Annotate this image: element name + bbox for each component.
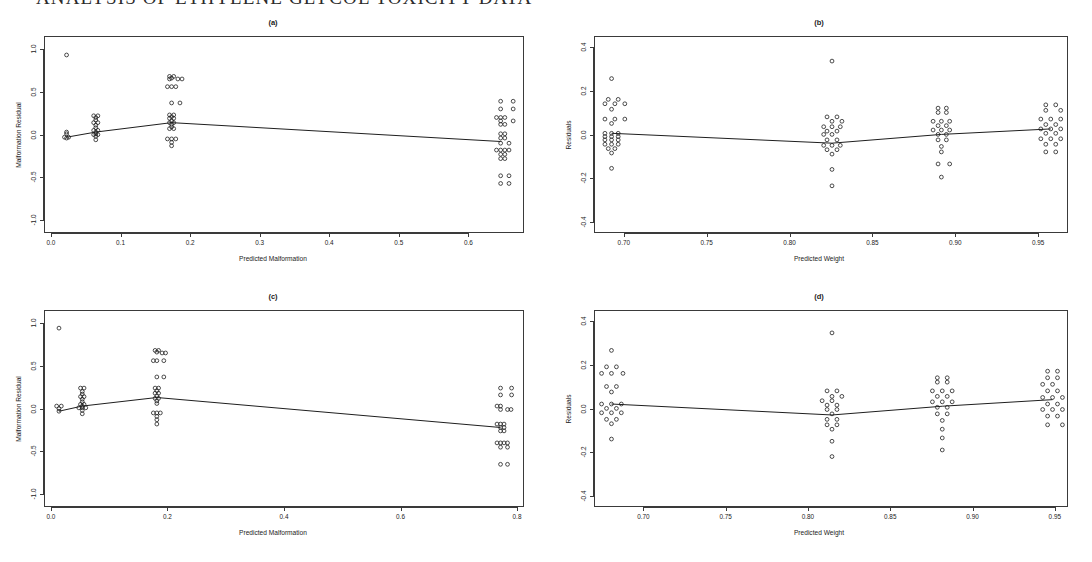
x-tick-label: 0.2 <box>186 239 195 246</box>
data-point <box>1059 127 1063 131</box>
data-point <box>939 128 943 132</box>
y-tick-label: 0.5 <box>30 87 37 96</box>
data-point <box>499 148 503 152</box>
y-tick-label: 0.0 <box>30 404 37 413</box>
x-tick-label: 0.90 <box>966 513 978 520</box>
data-point <box>830 133 834 137</box>
data-point <box>825 389 829 393</box>
data-point <box>945 394 949 398</box>
data-point <box>610 390 614 394</box>
data-point <box>499 462 503 466</box>
data-point <box>939 150 943 154</box>
plot-area-b <box>594 36 1068 233</box>
y-tick-label: 0.0 <box>580 404 587 413</box>
data-point <box>950 400 954 404</box>
data-layer-c <box>45 311 525 508</box>
y-tick-label: 0.2 <box>580 86 587 95</box>
data-point <box>1046 423 1050 427</box>
data-point <box>940 389 944 393</box>
data-point <box>939 119 943 123</box>
data-point <box>499 152 503 156</box>
x-tick-label: 0.0 <box>47 239 56 246</box>
data-point <box>610 151 614 155</box>
data-point <box>166 137 170 141</box>
data-point <box>499 107 503 111</box>
data-point <box>510 393 514 397</box>
data-point <box>830 184 834 188</box>
data-point <box>931 119 935 123</box>
data-point <box>1059 108 1063 112</box>
data-point <box>506 462 510 466</box>
data-point <box>507 141 511 145</box>
y-tick <box>590 496 594 497</box>
data-point <box>503 116 507 120</box>
data-point <box>944 111 948 115</box>
data-point <box>838 143 842 147</box>
data-point <box>936 138 940 142</box>
data-point <box>605 407 609 411</box>
x-tick <box>468 233 469 237</box>
data-point <box>605 385 609 389</box>
x-tick-label: 0.4 <box>280 513 289 520</box>
data-point <box>1054 123 1058 127</box>
data-point <box>825 403 829 407</box>
data-point <box>1051 382 1055 386</box>
data-point <box>610 349 614 353</box>
data-point <box>499 132 503 136</box>
data-point <box>610 142 614 146</box>
plot-area-c <box>44 310 524 507</box>
data-point <box>176 77 180 81</box>
data-point <box>936 106 940 110</box>
data-point <box>840 394 844 398</box>
data-point <box>499 386 503 390</box>
x-tick-label: 0.70 <box>618 239 630 246</box>
fitted-line-d <box>611 400 1052 415</box>
y-tick <box>40 494 44 495</box>
data-point <box>155 402 159 406</box>
data-point <box>835 148 839 152</box>
x-tick-label: 0.85 <box>866 239 878 246</box>
x-tick-label: 0.95 <box>1032 239 1044 246</box>
data-point <box>944 106 948 110</box>
data-point <box>610 371 614 375</box>
y-axis-line <box>43 49 44 220</box>
data-point <box>835 115 839 119</box>
y-tick-label: 0.4 <box>580 42 587 51</box>
panel-a: (a)0.00.10.20.30.40.50.61.00.50.0-0.5-1.… <box>0 14 546 288</box>
figure-residual-plots: (a)0.00.10.20.30.40.50.61.00.50.0-0.5-1.… <box>0 14 1092 562</box>
data-point <box>948 162 952 166</box>
data-point <box>945 380 949 384</box>
data-point <box>830 399 834 403</box>
data-point <box>605 417 609 421</box>
data-point <box>935 405 939 409</box>
data-point <box>935 376 939 380</box>
x-tick-label: 0.75 <box>719 513 731 520</box>
data-point <box>503 132 507 136</box>
data-point <box>603 117 607 121</box>
data-point <box>170 101 174 105</box>
data-point <box>610 437 614 441</box>
data-point <box>510 386 514 390</box>
x-axis-title-a: Predicted Malformation <box>0 255 546 262</box>
y-tick-label: 0.0 <box>580 130 587 139</box>
data-point <box>1056 402 1060 406</box>
data-point <box>162 375 166 379</box>
data-point <box>1044 142 1048 146</box>
data-point <box>610 107 614 111</box>
y-tick-label: -0.4 <box>580 491 587 502</box>
data-point <box>499 136 503 140</box>
data-point <box>835 138 839 142</box>
data-point <box>830 119 834 123</box>
data-point <box>162 359 166 363</box>
data-point <box>1046 414 1050 418</box>
data-point <box>825 148 829 152</box>
data-point <box>825 423 829 427</box>
data-point <box>931 389 935 393</box>
data-point <box>940 400 944 404</box>
x-tick-label: 0.4 <box>325 239 334 246</box>
y-axis-line <box>593 321 594 496</box>
data-point <box>830 455 834 459</box>
panel-title-c: (c) <box>0 292 546 301</box>
data-point <box>606 147 610 151</box>
data-point <box>940 427 944 431</box>
